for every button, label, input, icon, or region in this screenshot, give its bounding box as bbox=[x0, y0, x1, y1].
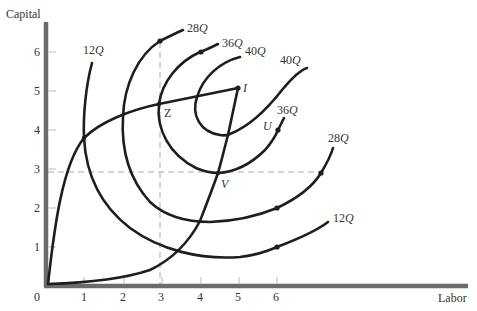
label-U: U bbox=[263, 119, 273, 133]
label-12q-top: 12Q bbox=[83, 43, 104, 57]
y-tick-label-3: 3 bbox=[34, 162, 40, 176]
y-tick-label-4: 4 bbox=[34, 123, 40, 137]
point-12q-upper bbox=[82, 136, 86, 140]
point-28q-top bbox=[157, 38, 162, 43]
axes: Capital Labor 0 1 2 3 4 5 6 1 2 3 4 5 6 bbox=[6, 7, 468, 305]
x-tick-label-3: 3 bbox=[158, 290, 164, 304]
y-tick-label-5: 5 bbox=[34, 84, 40, 98]
y-tick-label-6: 6 bbox=[34, 45, 40, 59]
point-28q-right bbox=[318, 170, 323, 175]
x-tick-label-5: 5 bbox=[235, 290, 241, 304]
label-12q-right: 12Q bbox=[333, 211, 354, 225]
isoquant-12q bbox=[84, 63, 328, 258]
y-tick-label-1: 1 bbox=[34, 240, 40, 254]
lower-ridge-line bbox=[48, 88, 238, 284]
label-40q-right: 40Q bbox=[280, 53, 301, 67]
origin-label: 0 bbox=[34, 290, 40, 304]
point-12q-6 bbox=[274, 244, 279, 249]
label-Z: Z bbox=[164, 106, 171, 120]
point-U bbox=[275, 127, 280, 132]
label-28q-top: 28Q bbox=[187, 21, 208, 35]
point-I bbox=[235, 85, 240, 90]
isoquant-40q bbox=[195, 57, 307, 135]
y-tick-label-2: 2 bbox=[34, 201, 40, 215]
upper-ridge-line bbox=[48, 88, 238, 284]
x-tick-label-4: 4 bbox=[197, 290, 203, 304]
isoquant-28q bbox=[123, 30, 333, 222]
x-tick-label-1: 1 bbox=[81, 290, 87, 304]
label-36q-right: 36Q bbox=[277, 103, 298, 117]
x-axis-title: Labor bbox=[438, 291, 467, 305]
point-V bbox=[216, 171, 220, 175]
label-V: V bbox=[221, 177, 230, 191]
isoquant-diagram: Capital Labor 0 1 2 3 4 5 6 1 2 3 4 5 6 bbox=[0, 0, 477, 311]
x-tick-label-2: 2 bbox=[120, 290, 126, 304]
label-36q-top: 36Q bbox=[222, 36, 243, 50]
label-28q-right: 28Q bbox=[328, 131, 349, 145]
ridge-lines bbox=[48, 88, 238, 284]
label-40q-top: 40Q bbox=[245, 44, 266, 58]
y-axis-title: Capital bbox=[6, 7, 41, 21]
point-Z bbox=[157, 102, 161, 106]
x-tick-label-6: 6 bbox=[273, 290, 279, 304]
point-36q-top bbox=[198, 49, 203, 54]
label-I: I bbox=[242, 81, 248, 95]
point-28q-6 bbox=[274, 205, 279, 210]
